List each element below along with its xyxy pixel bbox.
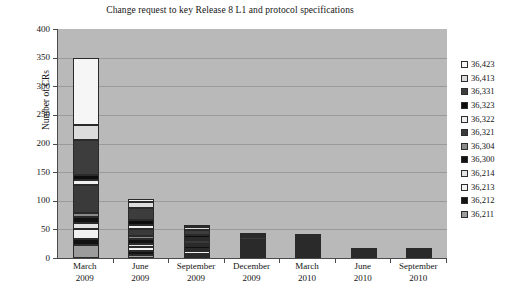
y-axis-tick-label: 400	[16, 25, 50, 34]
chart-title: Change request to key Release 8 L1 and p…	[0, 5, 460, 15]
stacked-bar	[351, 248, 377, 258]
x-axis-tick-label: September2010	[382, 261, 454, 284]
legend-item[interactable]: 36,413	[461, 72, 523, 86]
bar-segment	[351, 256, 377, 258]
legend-swatch	[461, 75, 468, 82]
legend-item[interactable]: 36,331	[461, 85, 523, 99]
legend-swatch	[461, 102, 468, 109]
legend-item[interactable]: 36,322	[461, 112, 523, 126]
stacked-bar	[73, 58, 99, 258]
y-axis-tick-label: 200	[16, 139, 50, 148]
bar-series-group	[58, 29, 447, 258]
legend-label: 36,413	[471, 74, 494, 83]
stacked-bar	[295, 234, 321, 258]
bar-segment	[73, 58, 99, 126]
legend-swatch	[461, 116, 468, 123]
legend-label: 36,331	[471, 87, 494, 96]
legend-swatch	[461, 197, 468, 204]
legend-label: 36,213	[471, 183, 494, 192]
bar-segment	[73, 239, 99, 246]
y-axis-tick-label: 100	[16, 196, 50, 205]
bar-segment	[73, 245, 99, 258]
x-axis-tick-label-line: September	[382, 261, 454, 273]
legend-swatch	[461, 170, 468, 177]
chart-container: Change request to key Release 8 L1 and p…	[0, 0, 524, 303]
stacked-bar	[184, 225, 210, 258]
legend-item[interactable]: 36,304	[461, 140, 523, 154]
legend-item[interactable]: 36,321	[461, 126, 523, 140]
stacked-bar	[240, 233, 266, 258]
bar-segment	[73, 140, 99, 175]
x-axis-labels: March2009June2009September2009December20…	[57, 261, 446, 295]
y-axis-tick-label: 350	[16, 53, 50, 62]
y-axis-tick-label: 0	[16, 254, 50, 263]
legend-item[interactable]: 36,211	[461, 208, 523, 222]
bar-segment	[184, 256, 210, 258]
legend-item[interactable]: 36,300	[461, 153, 523, 167]
bar-segment	[295, 256, 321, 258]
legend-label: 36,300	[471, 155, 494, 164]
bar-segment	[128, 208, 154, 221]
legend-swatch	[461, 143, 468, 150]
x-axis-tick-label-line: 2010	[382, 273, 454, 285]
legend-item[interactable]: 36,214	[461, 167, 523, 181]
legend-swatch	[461, 156, 468, 163]
y-axis-tick-label: 150	[16, 168, 50, 177]
y-axis-tick-label: 50	[16, 225, 50, 234]
legend-label: 36,214	[471, 169, 494, 178]
bar-segment	[73, 229, 99, 239]
legend-label: 36,212	[471, 196, 494, 205]
legend-item[interactable]: 36,323	[461, 99, 523, 113]
legend-item[interactable]: 36,423	[461, 58, 523, 72]
legend-swatch	[461, 184, 468, 191]
stacked-bar	[406, 248, 432, 258]
legend-label: 36,304	[471, 142, 494, 151]
y-axis-tick-label: 250	[16, 110, 50, 119]
legend-label: 36,423	[471, 60, 494, 69]
stacked-bar	[128, 199, 154, 258]
legend-swatch	[461, 61, 468, 68]
y-axis-tick-label: 300	[16, 82, 50, 91]
plot-area	[57, 29, 447, 259]
legend-swatch	[461, 129, 468, 136]
bar-segment	[128, 255, 154, 258]
chart-legend: 36,42336,41336,33136,32336,32236,32136,3…	[461, 58, 523, 221]
bar-segment	[240, 256, 266, 258]
legend-label: 36,321	[471, 128, 494, 137]
legend-label: 36,211	[471, 210, 494, 219]
bar-segment	[73, 185, 99, 212]
bar-segment	[406, 256, 432, 258]
legend-item[interactable]: 36,212	[461, 194, 523, 208]
bar-segment	[128, 229, 154, 236]
legend-swatch	[461, 88, 468, 95]
legend-label: 36,322	[471, 115, 494, 124]
legend-swatch	[461, 211, 468, 218]
legend-item[interactable]: 36,213	[461, 180, 523, 194]
legend-label: 36,323	[471, 101, 494, 110]
bar-segment	[73, 125, 99, 139]
